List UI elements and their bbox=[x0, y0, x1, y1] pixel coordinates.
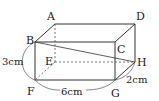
label-A: A bbox=[46, 10, 56, 23]
label-B: B bbox=[26, 34, 34, 47]
height-label: 3cm bbox=[2, 56, 24, 67]
label-H: H bbox=[137, 56, 147, 69]
cuboid-diagram: A D B C E H F G 3cm 6cm 2cm bbox=[0, 0, 159, 101]
height-arc bbox=[22, 42, 35, 80]
edge-CD bbox=[115, 24, 135, 42]
label-C: C bbox=[117, 43, 125, 56]
edge-BA bbox=[35, 24, 55, 42]
width-arc-left bbox=[35, 80, 60, 90]
label-G: G bbox=[111, 87, 120, 100]
depth-label: 2cm bbox=[126, 74, 148, 85]
label-E: E bbox=[45, 55, 53, 68]
label-D: D bbox=[136, 10, 145, 23]
width-label: 6cm bbox=[61, 86, 83, 97]
label-F: F bbox=[27, 85, 35, 98]
